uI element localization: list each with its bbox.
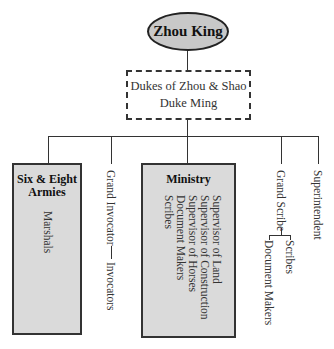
connector-grand-scribe-children (281, 228, 282, 235)
node-ministry-title: Ministry (143, 173, 234, 186)
connector-grand-scribe-bracket (269, 235, 291, 236)
node-dukes-line-1: Dukes of Zhou & Shao (131, 78, 247, 95)
node-gs-scribes: Scribes (284, 240, 296, 274)
connector-invocators (111, 246, 112, 259)
node-invocators: Invocators (105, 262, 117, 311)
node-superintendent: Superintendent (312, 170, 324, 240)
node-supervisor-horses: Supervisor of Horses (187, 195, 199, 292)
node-armies-title-line-2: Armies (14, 186, 80, 199)
connector-king-dukes (187, 48, 188, 70)
connector-grand-invocator (111, 136, 112, 164)
node-supervisor-construction: Supervisor of Construction (199, 195, 211, 320)
node-ministry-scribes: Scribes (163, 195, 175, 229)
node-grand-invocator: Grand Invocator (105, 170, 117, 246)
connector-dukes-bus (187, 118, 188, 136)
node-zhou-king: Zhou King (147, 12, 229, 51)
node-ministry: Ministry Supervisor of Land Supervisor o… (141, 163, 236, 338)
node-marshals: Marshals (42, 211, 54, 253)
connector-grand-scribe (281, 136, 282, 164)
node-six-eight-armies: Six & Eight Armies Marshals (12, 163, 82, 335)
node-dukes-line-2: Duke Ming (160, 95, 217, 112)
node-ministry-document-makers: Document Makers (175, 195, 187, 280)
connector-bus (48, 136, 319, 137)
node-supervisor-land: Supervisor of Land (211, 195, 223, 284)
node-armies-title: Six & Eight Armies (14, 173, 80, 199)
node-grand-scribe: Grand Scribe (275, 170, 287, 231)
connector-superintendent (318, 136, 319, 164)
node-dukes: Dukes of Zhou & Shao Duke Ming (126, 70, 251, 120)
connector-armies (48, 136, 49, 163)
connector-ministry (187, 136, 188, 163)
node-zhou-king-label: Zhou King (153, 23, 223, 40)
node-gs-document-makers: Document Makers (263, 240, 275, 325)
